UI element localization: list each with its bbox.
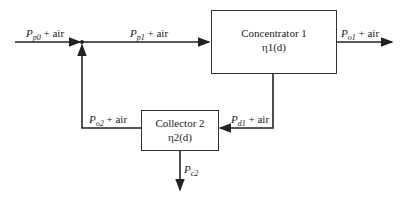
label-po1: Po1 + air bbox=[341, 27, 379, 44]
label-po2: Po2 + air bbox=[89, 113, 127, 130]
concentrator-title: Concentrator 1 bbox=[212, 26, 336, 40]
concentrator-efficiency: η1(d) bbox=[212, 40, 336, 54]
collector-title: Collector 2 bbox=[142, 116, 218, 130]
label-pc2: Pc2 bbox=[184, 163, 198, 180]
label-pp0: Pp0 + air bbox=[26, 27, 64, 44]
label-pp1: Pp1 + air bbox=[130, 27, 168, 44]
label-pd1: Pd1 + air bbox=[231, 113, 269, 130]
collector-efficiency: η2(d) bbox=[142, 130, 218, 144]
concentrator-node: Concentrator 1 η1(d) bbox=[211, 10, 337, 74]
collector-node: Collector 2 η2(d) bbox=[141, 110, 219, 151]
